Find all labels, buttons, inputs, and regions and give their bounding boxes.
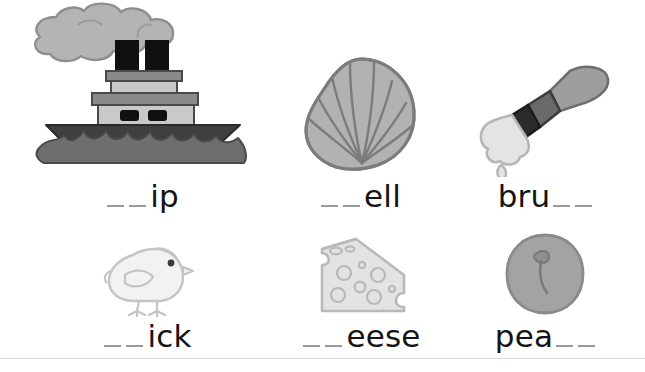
blank-group-peach[interactable] xyxy=(556,345,595,349)
picture-word-grid: ip xyxy=(0,0,645,352)
blank-line[interactable] xyxy=(553,205,570,207)
blank-group-cheese[interactable] xyxy=(303,345,342,349)
worksheet-item-brush[interactable]: bru xyxy=(452,26,638,212)
word-fragment-cheese: eese xyxy=(346,321,420,352)
blank-line[interactable] xyxy=(303,345,320,347)
blank-group-brush[interactable] xyxy=(553,205,592,209)
worksheet-item-shell[interactable]: ell xyxy=(276,26,446,212)
worksheet-item-peach[interactable]: pea xyxy=(456,216,634,352)
worksheet-item-chick[interactable]: ick xyxy=(48,224,248,352)
blank-group-ship[interactable] xyxy=(107,205,146,209)
blank-line[interactable] xyxy=(104,345,121,347)
blank-line[interactable] xyxy=(575,205,592,207)
word-label-peach: pea xyxy=(495,321,595,352)
word-label-chick: ick xyxy=(104,321,191,352)
blank-group-chick[interactable] xyxy=(104,345,143,349)
word-fragment-brush: bru xyxy=(498,181,551,212)
blank-line[interactable] xyxy=(325,345,342,347)
steamship-icon xyxy=(18,0,268,181)
word-fragment-peach: pea xyxy=(495,321,553,352)
blank-line[interactable] xyxy=(556,345,573,347)
blank-line[interactable] xyxy=(343,205,360,207)
blank-line[interactable] xyxy=(578,345,595,347)
blank-line[interactable] xyxy=(321,205,338,207)
word-fragment-ship: ip xyxy=(150,181,179,212)
worksheet-item-ship[interactable]: ip xyxy=(8,0,278,212)
footer-divider xyxy=(0,358,645,359)
word-label-cheese: eese xyxy=(303,321,420,352)
blank-group-shell[interactable] xyxy=(321,205,360,209)
paintbrush-icon xyxy=(474,61,616,181)
worksheet-item-cheese[interactable]: eese xyxy=(272,220,452,352)
word-fragment-shell: ell xyxy=(364,181,401,212)
blank-line[interactable] xyxy=(129,205,146,207)
blank-line[interactable] xyxy=(107,205,124,207)
cheese-wedge-icon xyxy=(316,235,408,321)
worksheet-page: ip xyxy=(0,0,645,372)
word-fragment-chick: ick xyxy=(147,321,191,352)
seashell-icon xyxy=(300,53,422,181)
peach-icon xyxy=(503,231,587,321)
chick-icon xyxy=(101,241,195,321)
blank-line[interactable] xyxy=(126,345,143,347)
word-label-ship: ip xyxy=(107,181,179,212)
word-label-shell: ell xyxy=(321,181,401,212)
word-label-brush: bru xyxy=(498,181,593,212)
